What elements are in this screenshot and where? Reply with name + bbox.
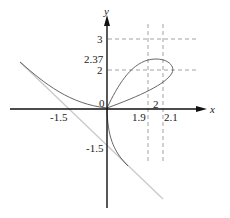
x-tick-neg-1.5: -1.5	[50, 111, 68, 123]
x-tick-2: 2	[153, 98, 159, 110]
y-axis	[104, 15, 110, 208]
y-tick-3: 3	[97, 33, 103, 45]
y-axis-label: y	[103, 5, 109, 17]
coordinate-diagram: x y 0 -1.5 1.9 2 2.1 3 2.37 2 -1.5	[0, 0, 230, 218]
y-tick-2: 2	[97, 64, 103, 76]
curve-left-branch	[20, 62, 107, 108]
x-tick-2.1: 2.1	[164, 111, 178, 123]
x-axis-arrow-icon	[196, 106, 207, 112]
origin-label: 0	[99, 97, 105, 109]
x-axis-label: x	[209, 103, 215, 115]
y-tick-neg-1.5: -1.5	[86, 142, 104, 154]
x-tick-1.9: 1.9	[132, 111, 146, 123]
asymptote-line	[20, 62, 163, 199]
dashed-guides	[108, 24, 198, 162]
curve-lower-branch	[107, 110, 128, 166]
